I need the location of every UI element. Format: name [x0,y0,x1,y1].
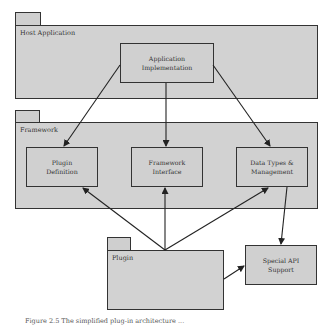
plugin-package: Plugin [107,250,224,310]
plugin-label: Plugin [112,254,133,262]
app-impl-line2: Implementation [142,63,193,72]
plugin-package-tab [107,237,131,251]
framework-label: Framework [20,126,58,134]
framework-iface-line2: Interface [149,167,186,176]
figure-caption: Figure 2.5 The simplified plug-in archit… [25,317,184,325]
special-api-line2: Support [263,265,300,274]
plugin-def-line1: Plugin [46,158,77,167]
host-application-label: Host Application [20,29,75,37]
plugin-definition-box: Plugin Definition [26,147,98,187]
app-impl-line1: Application [142,54,193,63]
framework-iface-line1: Framework [149,158,186,167]
plugin-def-line2: Definition [46,167,77,176]
data-types-line1: Data Types & [250,158,293,167]
data-types-line2: Management [250,167,293,176]
special-api-line1: Special API [263,256,300,265]
data-types-management-box: Data Types & Management [236,147,308,187]
special-api-support-box: Special API Support [245,245,317,285]
host-application-package-tab [15,12,41,26]
application-implementation-box: Application Implementation [120,43,214,83]
arrow-plugin-to-special-api [224,266,244,279]
framework-interface-box: Framework Interface [131,147,203,187]
